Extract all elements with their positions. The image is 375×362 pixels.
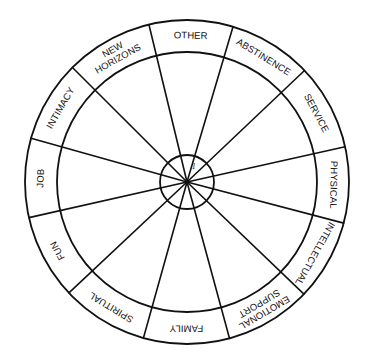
segment-label: SPIRITUAL: [87, 290, 135, 325]
segment-label: OTHER: [174, 29, 208, 41]
segment-intellectual: INTELLECTUAL: [293, 220, 337, 287]
segment-label: FAMILY: [169, 323, 203, 334]
segment-service: SERVICE: [302, 92, 332, 134]
spoke-line: [72, 67, 187, 182]
segment-label: INTELLECTUAL: [293, 220, 337, 287]
spoke-line: [187, 182, 229, 338]
segment-label: SERVICE: [302, 92, 332, 134]
segment-label: PHYSICAL: [328, 161, 340, 209]
spoke-line: [187, 27, 233, 182]
segment-label: ABSTINENCE: [235, 36, 293, 78]
segment-abstinence: ABSTINENCE: [235, 36, 293, 78]
segment-label: INTIMACY: [44, 85, 77, 131]
spoke-line: [69, 182, 187, 293]
life-areas-wheel: OTHERABSTINENCESERVICEPHYSICALINTELLECTU…: [0, 0, 375, 362]
spoke-line: [187, 182, 344, 223]
spoke-line: [187, 182, 304, 294]
spoke-line: [29, 182, 187, 218]
segment-spiritual: SPIRITUAL: [87, 290, 135, 325]
spoke-line: [149, 25, 187, 182]
segment-intimacy: INTIMACY: [44, 85, 77, 131]
segment-label: JOB: [34, 169, 45, 188]
spoke-line: [143, 182, 187, 338]
segment-other: OTHER: [174, 29, 208, 41]
segment-family: FAMILY: [169, 323, 203, 334]
spoke-line: [187, 70, 305, 182]
spoke-line: [31, 138, 187, 182]
segment-new-horizons: NEWHORIZONS: [88, 32, 143, 76]
spokes: [29, 25, 345, 339]
segment-physical: PHYSICAL: [328, 161, 340, 209]
segment-job: JOB: [34, 169, 45, 188]
spoke-line: [187, 147, 345, 182]
segment-label: FUN: [48, 240, 67, 263]
segment-fun: FUN: [48, 240, 67, 263]
hub-number-label: 1: [192, 162, 196, 171]
